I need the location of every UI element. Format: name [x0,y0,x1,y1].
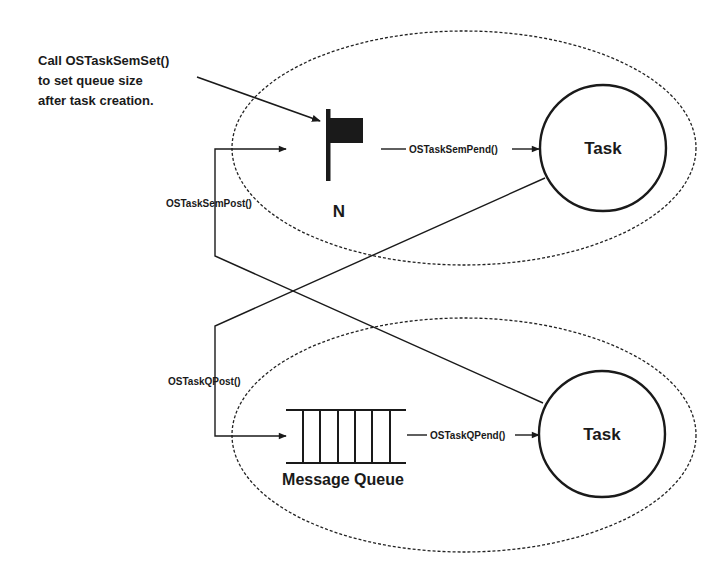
callout-line-1: Call OSTaskSemSet() [38,53,169,68]
q-post-connector [215,178,545,436]
semaphore-count-label: N [333,202,345,221]
callout-note: Call OSTaskSemSet() to set queue size af… [38,53,169,108]
diagram-canvas: Call OSTaskSemSet() to set queue size af… [0,0,727,580]
message-queue-label: Message Queue [282,471,404,488]
q-pend-label: OSTaskQPend() [430,430,505,441]
callout-line-2: to set queue size [38,73,143,88]
callout-line-3: after task creation. [38,93,154,108]
sem-post-connector [215,149,543,403]
sem-pend-label: OSTaskSemPend() [409,144,498,155]
upper-task-label: Task [584,139,622,158]
semaphore-flag-icon [326,109,363,181]
q-pend-connector: OSTaskQPend() [407,430,539,441]
sem-pend-connector: OSTaskSemPend() [381,144,539,155]
q-post-label: OSTaskQPost() [168,376,241,387]
message-queue-icon [286,410,406,463]
callout-arrow [197,77,320,121]
sem-post-label: OSTaskSemPost() [166,198,252,209]
lower-task-label: Task [583,425,621,444]
